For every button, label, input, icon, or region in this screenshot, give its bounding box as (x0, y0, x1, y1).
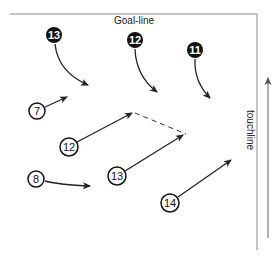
defender-13-run-arrow (125, 135, 183, 171)
dashed-connection-line (135, 113, 186, 134)
attacker-12-run-arrow (135, 49, 157, 92)
defender-14-run-arrow (178, 160, 231, 197)
defender-12-number: 12 (63, 141, 75, 153)
goal-line-label: Goal-line (114, 15, 154, 26)
attacker-13-number: 13 (48, 29, 60, 41)
attacker-11-number: 11 (189, 44, 201, 56)
diagram-canvas: Goal-line touchline 13 12 11 7 12 8 13 (0, 0, 278, 256)
defender-14-number: 14 (164, 197, 176, 209)
attacker-11-run-arrow (195, 59, 210, 98)
defender-7-number: 7 (34, 105, 40, 117)
defender-13: 13 (108, 135, 183, 185)
touchline-label: touchline (245, 110, 256, 150)
defender-8: 8 (28, 171, 90, 187)
defender-7: 7 (29, 97, 67, 119)
defender-8-run-arrow (45, 181, 90, 186)
defender-8-number: 8 (33, 173, 39, 185)
defender-7-run-arrow (45, 97, 67, 107)
attacker-13-run-arrow (55, 44, 88, 85)
defender-12: 12 (60, 113, 132, 156)
attacker-12: 12 (127, 32, 157, 92)
defender-13-number: 13 (111, 170, 123, 182)
defender-12-run-arrow (77, 113, 132, 142)
attacker-12-number: 12 (129, 34, 141, 46)
attacker-11: 11 (187, 42, 210, 98)
attacker-13: 13 (46, 27, 88, 85)
defender-14: 14 (161, 160, 231, 212)
